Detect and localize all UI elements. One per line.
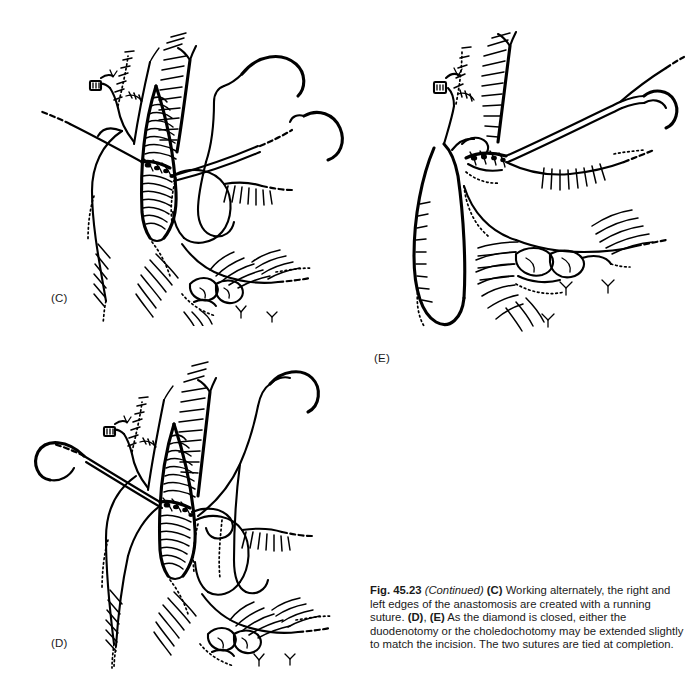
surgical-needle-lower: [304, 112, 342, 160]
duodenal-wall-bottom: [182, 244, 224, 276]
duodenal-folds-center: [136, 254, 178, 317]
mesentery-hatching-right: [252, 250, 300, 279]
cystic-duct-stump-d: [132, 454, 148, 488]
figure-number: Fig. 45.23: [370, 584, 422, 596]
mucosa-hatching-lower: [142, 175, 172, 229]
mesentery-hatching-e: [592, 210, 653, 254]
caption-ref-e: (E): [430, 611, 445, 623]
cystic-duct-stump-e: [444, 106, 454, 144]
figure-panel-c: [14, 26, 364, 326]
suture-strand-upper-right-e: [506, 102, 620, 156]
caption-ref-c: (C): [487, 584, 503, 596]
surgical-needle-upper-right-d: [270, 372, 318, 412]
duodenum-lobe-d: [196, 516, 249, 582]
figure-panel-d: [26, 344, 376, 670]
surgical-needle-e: [644, 91, 677, 128]
panel-d-illustration: [26, 344, 376, 670]
duodenum-lobe: [176, 170, 231, 243]
figure-page: (C): [0, 0, 688, 680]
duodenal-folds-center-d: [154, 592, 196, 655]
suture-loop-left-d: [128, 506, 160, 556]
panel-label-c: (C): [51, 292, 68, 304]
mesentery-hatching-right-d: [272, 598, 320, 627]
surgical-needle-upper: [242, 57, 304, 96]
duct-hatching-left: [416, 202, 432, 302]
duct-wall-hatching-upper: [164, 33, 186, 50]
duodenal-wall-bottom-d: [202, 594, 244, 626]
duodenal-wall-lower-e: [516, 240, 584, 252]
figure-continued: (Continued): [425, 584, 484, 596]
suture-strand-right-a: [172, 146, 258, 176]
caption-ref-d: (D): [408, 611, 424, 623]
panel-c-artwork: [40, 33, 342, 326]
panel-e-artwork: [414, 32, 684, 331]
duodenum-flange-hatching-e: [542, 164, 605, 190]
pancreas-lobules-e: [516, 248, 630, 295]
cystic-duct-stump: [118, 108, 134, 142]
cystic-duct-hatching: [114, 51, 134, 100]
panel-e-illustration: [366, 26, 688, 356]
figure-panel-e: [366, 26, 688, 356]
panel-d-artwork: [36, 362, 332, 668]
panel-label-e: (E): [374, 352, 390, 364]
surgical-needle-upper-left-d: [36, 443, 84, 480]
figure-caption: Fig. 45.23 (Continued) (C) Working alter…: [370, 584, 684, 652]
mucosa-hatching-lower-d: [160, 515, 191, 569]
panel-label-d: (D): [51, 637, 68, 649]
panel-c-illustration: [14, 26, 364, 326]
